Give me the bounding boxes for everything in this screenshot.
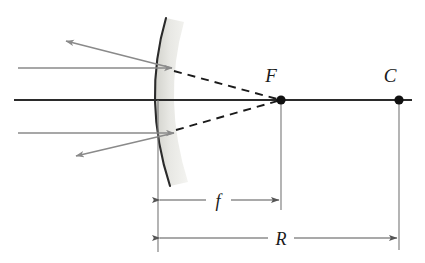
lower-virtual-extension <box>176 100 281 130</box>
focal-point-label: F <box>264 65 277 86</box>
focal-length-label: f <box>215 191 223 211</box>
optics-ray-diagram-figure: F C f R <box>0 0 425 263</box>
diagram-canvas: F C f R <box>0 0 425 263</box>
radius-label: R <box>275 229 287 249</box>
center-of-curvature-label: C <box>384 65 397 86</box>
center-of-curvature-marker <box>394 95 403 104</box>
focal-point-marker <box>276 95 285 104</box>
upper-reflected-ray <box>66 41 172 68</box>
